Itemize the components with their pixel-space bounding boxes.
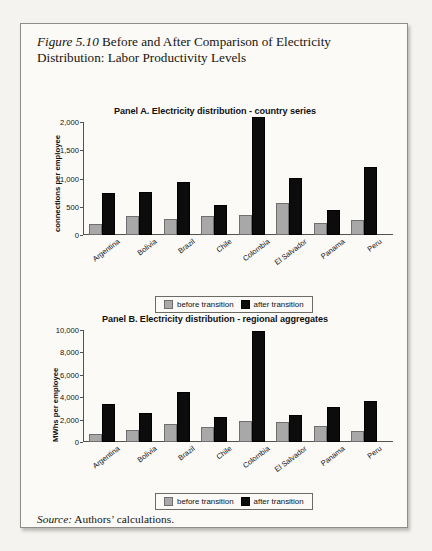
bar-after-transition <box>364 401 377 442</box>
y-tick-mark <box>80 235 83 236</box>
bar-before-transition <box>89 224 102 235</box>
bar-after-transition <box>327 407 340 442</box>
legend-swatch-before-icon <box>164 497 173 506</box>
bar-after-transition <box>177 392 190 442</box>
bar-before-transition <box>351 431 364 442</box>
bar-after-transition <box>289 178 302 235</box>
bar-group <box>199 122 229 235</box>
bar-group <box>162 122 192 235</box>
bar-group <box>162 330 192 442</box>
bar-before-transition <box>201 427 214 442</box>
panel-a-legend: before transition after transition <box>155 296 313 313</box>
figure-caption: Figure 5.10 Before and After Comparison … <box>37 34 389 66</box>
page-background: Figure 5.10 Before and After Comparison … <box>0 0 432 551</box>
y-tick-mark <box>80 352 83 353</box>
x-tick-label: Chile <box>215 444 234 461</box>
figure-container: Figure 5.10 Before and After Comparison … <box>20 23 408 528</box>
panel-b: Panel B. Electricity distribution - regi… <box>21 314 409 519</box>
panel-a-plot-area: 05001,0001,5002,000 <box>83 122 383 235</box>
y-tick-mark <box>80 420 83 421</box>
x-tick-label: Brazil <box>176 444 196 462</box>
bar-after-transition <box>327 210 340 235</box>
bar-before-transition <box>164 424 177 442</box>
x-tick-label: Panama <box>319 444 346 468</box>
x-tick-label: Chile <box>215 237 234 254</box>
bar-group <box>237 122 267 235</box>
panel-a-x-tick-labels: ArgentinaBoliviaBrazilChileColombiaEl Sa… <box>83 237 393 283</box>
bar-after-transition <box>252 117 265 235</box>
bar-group <box>124 122 154 235</box>
legend-item-before: before transition <box>164 300 234 309</box>
bar-group <box>87 330 117 442</box>
bar-after-transition <box>102 193 115 235</box>
x-tick-label: El Salvador <box>273 237 309 267</box>
x-tick-label: Bolivia <box>136 237 159 257</box>
panel-b-x-tick-labels: ArgentinaBoliviaBrazilChileColombiaEl Sa… <box>83 444 393 490</box>
bar-group <box>349 330 379 442</box>
legend-swatch-before-icon <box>164 300 173 309</box>
legend-label-after: after transition <box>254 497 304 506</box>
x-tick-label: Argentina <box>90 237 121 263</box>
bar-before-transition <box>201 216 214 235</box>
panel-a-bar-group <box>83 122 383 235</box>
x-tick-label: Bolivia <box>136 444 159 464</box>
legend-item-after: after transition <box>241 497 304 506</box>
bar-before-transition <box>276 203 289 235</box>
panel-a: Panel A. Electricity distribution - coun… <box>21 106 409 318</box>
y-tick-mark <box>80 397 83 398</box>
y-tick-mark <box>80 330 83 331</box>
bar-before-transition <box>314 223 327 235</box>
bar-after-transition <box>252 331 265 442</box>
bar-after-transition <box>102 404 115 442</box>
bar-after-transition <box>289 415 302 442</box>
x-tick-label: Colombia <box>241 444 271 470</box>
source-note: Source: Authors’ calculations. <box>37 513 174 525</box>
bar-group <box>87 122 117 235</box>
y-tick-mark <box>80 150 83 151</box>
bar-after-transition <box>139 192 152 236</box>
y-tick-mark <box>80 442 83 443</box>
bar-group <box>124 330 154 442</box>
legend-label-before: before transition <box>177 300 234 309</box>
x-tick-label: Panama <box>319 237 346 261</box>
legend-label-before: before transition <box>177 497 234 506</box>
panel-b-plot-area: 02,0004,0006,0008,00010,000 <box>83 330 383 442</box>
y-tick-mark <box>80 375 83 376</box>
bar-after-transition <box>364 167 377 235</box>
panel-b-title: Panel B. Electricity distribution - regi… <box>21 314 409 324</box>
panel-b-bar-group <box>83 330 383 442</box>
y-tick-mark <box>80 179 83 180</box>
bar-before-transition <box>89 434 102 442</box>
legend-item-after: after transition <box>241 300 304 309</box>
source-text: Authors’ calculations. <box>72 513 174 525</box>
bar-before-transition <box>276 422 289 442</box>
x-tick-label: Brazil <box>176 237 196 255</box>
legend-swatch-after-icon <box>241 497 250 506</box>
bar-before-transition <box>164 219 177 235</box>
legend-swatch-after-icon <box>241 300 250 309</box>
x-tick-label: Colombia <box>241 237 271 263</box>
bar-after-transition <box>177 182 190 235</box>
bar-before-transition <box>239 421 252 442</box>
bar-before-transition <box>126 430 139 442</box>
legend-item-before: before transition <box>164 497 234 506</box>
bar-after-transition <box>214 417 227 442</box>
y-tick-label: 10,000 <box>56 326 83 335</box>
bar-after-transition <box>139 413 152 442</box>
bar-group <box>274 122 304 235</box>
bar-before-transition <box>126 216 139 235</box>
bar-group <box>312 330 342 442</box>
x-tick-label: Peru <box>366 237 384 254</box>
x-tick-label: Argentina <box>90 444 121 470</box>
x-tick-label: Peru <box>366 444 384 461</box>
source-label: Source: <box>37 513 72 525</box>
panel-b-y-axis-label: MWhs per employee <box>51 368 60 442</box>
bar-group <box>274 330 304 442</box>
bar-group <box>237 330 267 442</box>
bar-before-transition <box>314 426 327 442</box>
bar-before-transition <box>239 215 252 235</box>
bar-group <box>349 122 379 235</box>
bar-before-transition <box>351 220 364 235</box>
panel-b-legend: before transition after transition <box>155 493 313 510</box>
y-tick-mark <box>80 122 83 123</box>
